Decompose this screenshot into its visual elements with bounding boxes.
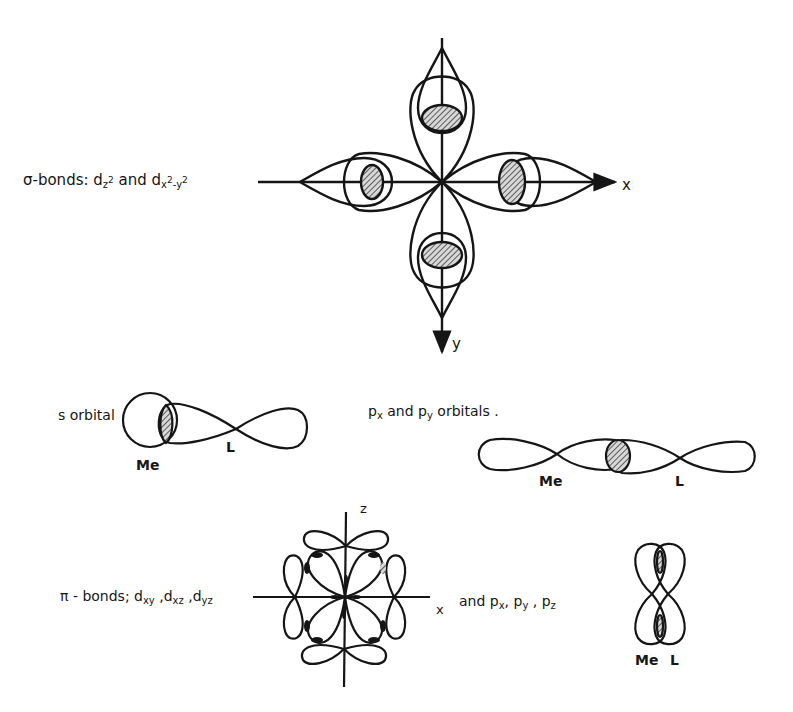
sup-2c: 2 (182, 175, 188, 185)
s-orbital-ligand-label: L (226, 440, 235, 454)
pi-ligand-right-bottom (386, 597, 405, 639)
pi-p-metal-label: Me (635, 653, 658, 667)
overlap-bottom (422, 242, 462, 268)
pi-p-orbital-diagram (635, 544, 684, 644)
sigma-label-mid: and d (114, 171, 161, 189)
sigma-bond-diagram (258, 38, 615, 352)
and-p-text: and p (459, 593, 499, 609)
pi-bonds-prefix: π - bonds; d (60, 588, 143, 604)
sep-2: ,d (184, 588, 202, 604)
p-overlap (606, 440, 630, 472)
pi-bond-diagram (253, 512, 430, 687)
pi-metal-lobe-ll (308, 597, 345, 643)
pi-bonds-label: π - bonds; dxy ,dxz ,dyz (60, 589, 213, 606)
pi-metal-lobe-ul (308, 551, 345, 597)
pi-ligand-left-top (284, 555, 303, 597)
pp-overlap-bottom (657, 615, 663, 637)
orbitals-text: orbitals . (433, 403, 499, 419)
and-p-text: and p (383, 403, 427, 419)
metal-p-lobe-left (479, 439, 557, 470)
ligand-p-lobe-right (680, 442, 755, 472)
orbital-overlap-figure: σ-bonds: dz2 and dx2-y2 x y s orbital Me… (0, 0, 793, 712)
pi-z-axis-label: z (360, 502, 367, 515)
pi-ligand-top-left (304, 531, 346, 550)
sigma-label-prefix: σ-bonds: d (23, 171, 103, 189)
s-overlap (160, 405, 172, 443)
pi-p-orbitals-label: and px, py , pz (459, 594, 556, 611)
pi-p-ligand-label: L (670, 653, 679, 667)
sub-xy: xy (143, 595, 155, 606)
overlap-left (361, 165, 383, 199)
sub-yz: yz (202, 595, 213, 606)
pi-ligand-right-top (386, 555, 405, 597)
p-orbitals-label: px and py orbitals . (368, 404, 499, 421)
s-orbital-metal-label: Me (136, 458, 159, 472)
pp-overlap-top (657, 551, 663, 573)
sub-xz: xz (173, 595, 184, 606)
overlap-top (422, 105, 462, 131)
s-orbital-diagram (123, 393, 307, 448)
sigma-x-axis-label: x (622, 178, 631, 193)
sigma-y-axis-label: y (452, 337, 461, 352)
pi-ligand-bottom-left (302, 645, 344, 664)
p-orbitals-metal-label: Me (539, 474, 562, 488)
pi-x-axis-label: x (436, 603, 444, 616)
p-text: p (368, 403, 377, 419)
sub-z: z (551, 600, 556, 611)
sep-1: , p (505, 593, 523, 609)
p-orbitals-ligand-label: L (675, 474, 684, 488)
pi-ligand-left-bottom (284, 597, 303, 639)
s-orbital-label: s orbital (58, 408, 115, 422)
sigma-bonds-label: σ-bonds: dz2 and dx2-y2 (23, 173, 188, 190)
sub-minus-y: -y (173, 179, 182, 190)
p-orbital-diagram (479, 439, 755, 474)
sep-1: ,d (155, 588, 173, 604)
pi-ligand-bottom-right (344, 645, 386, 664)
pi-ligand-top-right (346, 531, 388, 550)
overlap-right (499, 160, 525, 204)
ligand-p-lobe-far (236, 408, 307, 448)
pi-metal-lobe-ur (345, 551, 382, 597)
pi-metal-lobe-lr (345, 597, 382, 643)
sep-2: , p (528, 593, 550, 609)
